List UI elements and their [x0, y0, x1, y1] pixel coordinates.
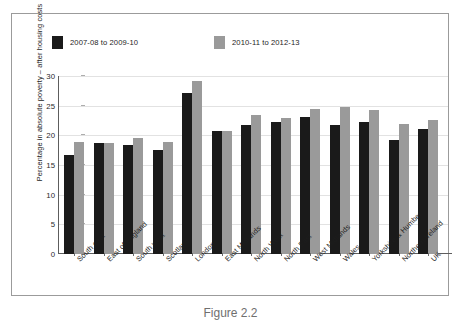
x-tick-mark: [74, 253, 75, 256]
x-axis-tick-labels: South eastEast of EnglandSouth westScotl…: [58, 257, 452, 311]
y-tick-label: 10: [41, 190, 55, 199]
chart-legend: 2007-08 to 2009-10 2010-11 to 2012-13: [46, 34, 376, 54]
bar[interactable]: [64, 155, 74, 254]
x-tick-mark: [133, 253, 134, 256]
legend-entry-series-0: 2007-08 to 2009-10: [52, 34, 138, 50]
y-tick-label: 20: [41, 131, 55, 140]
x-tick-mark: [281, 253, 282, 256]
bar-group: [212, 76, 232, 254]
legend-label-series-0: 2007-08 to 2009-10: [70, 38, 138, 47]
y-tick-label: 30: [41, 72, 55, 81]
x-tick-mark: [251, 253, 252, 256]
bar-group: [64, 76, 84, 254]
bar[interactable]: [359, 122, 369, 254]
bar[interactable]: [222, 131, 232, 254]
legend-swatch-series-1: [214, 36, 225, 49]
bar-group: [153, 76, 173, 254]
bar-group: [271, 76, 291, 254]
legend-entry-series-1: 2010-11 to 2012-13: [214, 34, 300, 50]
x-tick-mark: [192, 253, 193, 256]
y-tick-label: 15: [41, 161, 55, 170]
y-tick-label: 5: [41, 220, 55, 229]
bar[interactable]: [212, 131, 222, 254]
legend-label-series-1: 2010-11 to 2012-13: [232, 38, 300, 47]
bar[interactable]: [192, 81, 202, 254]
bar-group: [359, 76, 379, 254]
bar[interactable]: [310, 109, 320, 254]
bar[interactable]: [74, 142, 84, 254]
bar-group: [94, 76, 114, 254]
bar-group: [182, 76, 202, 254]
bar[interactable]: [369, 110, 379, 254]
legend-swatch-series-0: [52, 36, 63, 49]
x-tick-mark: [340, 253, 341, 256]
y-tick-label: 0: [41, 250, 55, 259]
x-tick-mark: [222, 253, 223, 256]
x-tick-mark: [399, 253, 400, 256]
x-tick-mark: [310, 253, 311, 256]
x-tick-mark: [104, 253, 105, 256]
x-tick-mark: [428, 253, 429, 256]
y-tick-label: 25: [41, 101, 55, 110]
y-axis-tick-labels: 051015202530: [38, 76, 55, 254]
figure-frame: 2007-08 to 2009-10 2010-11 to 2012-13 Pe…: [11, 13, 449, 296]
bar[interactable]: [182, 93, 192, 254]
bar-group: [300, 76, 320, 254]
x-tick-mark: [163, 253, 164, 256]
figure-caption: Figure 2.2: [0, 306, 461, 320]
x-tick-mark: [369, 253, 370, 256]
